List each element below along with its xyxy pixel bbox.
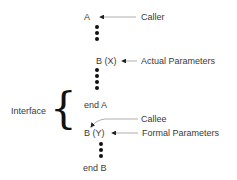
end-caller-node: end A (84, 100, 107, 110)
caller-label: Caller (141, 12, 165, 22)
call-statement-node: B (X) (96, 56, 117, 66)
ellipsis-dot (95, 86, 99, 90)
formal-parameters-label: Formal Parameters (142, 128, 219, 138)
callee-arrow (91, 119, 138, 127)
ellipsis-dot (99, 142, 103, 146)
curly-brace-icon: { (50, 88, 77, 130)
ellipsis-dot (95, 74, 99, 78)
ellipsis-dot (95, 31, 99, 35)
interface-label: Interface (11, 106, 46, 116)
ellipsis-dot (95, 25, 99, 29)
callee-label: Callee (141, 114, 167, 124)
ellipsis-dot (95, 80, 99, 84)
actual-parameters-label: Actual Parameters (141, 56, 215, 66)
arrows-layer (0, 0, 237, 180)
ellipsis-dot (99, 154, 103, 158)
callee-node: B (Y) (84, 128, 105, 138)
ellipsis-dot (99, 148, 103, 152)
caller-node: A (84, 12, 90, 22)
ellipsis-dot (95, 68, 99, 72)
end-callee-node: end B (83, 163, 107, 173)
ellipsis-dot (95, 37, 99, 41)
